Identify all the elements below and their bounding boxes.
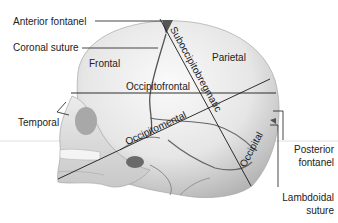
label-temporal: Temporal	[18, 117, 59, 128]
label-lambdoidal-suture-line1: Lambdoidal	[266, 192, 334, 203]
label-lambdoidal-suture-line2: suture	[266, 205, 334, 216]
bone-parietal: Parietal	[212, 52, 246, 63]
label-posterior-fontanel: Posterior fontanel	[282, 144, 334, 168]
bone-frontal: Frontal	[89, 58, 120, 69]
label-anterior-fontanel: Anterior fontanel	[13, 16, 86, 27]
fetal-skull-diagram: Anterior fontanel Coronal suture Tempora…	[0, 0, 338, 223]
label-posterior-fontanel-line2: fontanel	[282, 157, 334, 168]
label-lambdoidal-suture: Lambdoidal suture	[266, 192, 334, 216]
diameter-occipitofrontal: Occipitofrontal	[126, 81, 190, 92]
label-coronal-suture: Coronal suture	[13, 42, 79, 53]
label-posterior-fontanel-line1: Posterior	[282, 144, 334, 155]
